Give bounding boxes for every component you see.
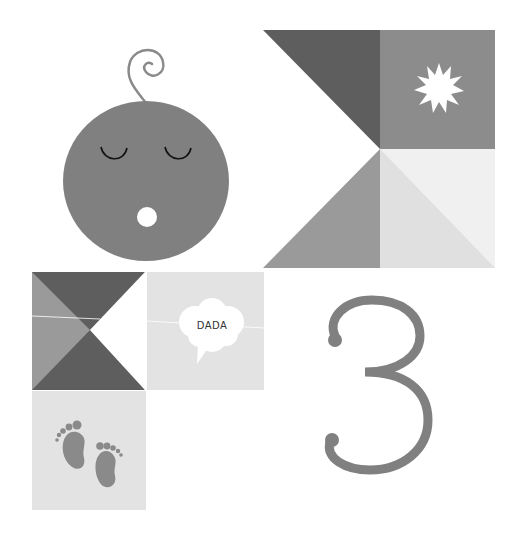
baby-face [63, 50, 229, 261]
illustration-canvas: DADA 3 [0, 0, 529, 540]
footprints-tile-bg [32, 391, 146, 510]
top-right-tiles [263, 30, 495, 268]
dada-tile: DADA [147, 272, 264, 390]
mouth-icon [137, 207, 157, 227]
footprints-tile [32, 391, 146, 510]
hair-curl-icon [129, 50, 164, 103]
bowtie-tile [32, 272, 145, 390]
dark-triangle [263, 30, 380, 149]
speech-text: DADA [197, 320, 228, 331]
face-circle [63, 101, 229, 261]
mid-triangle [263, 149, 380, 268]
